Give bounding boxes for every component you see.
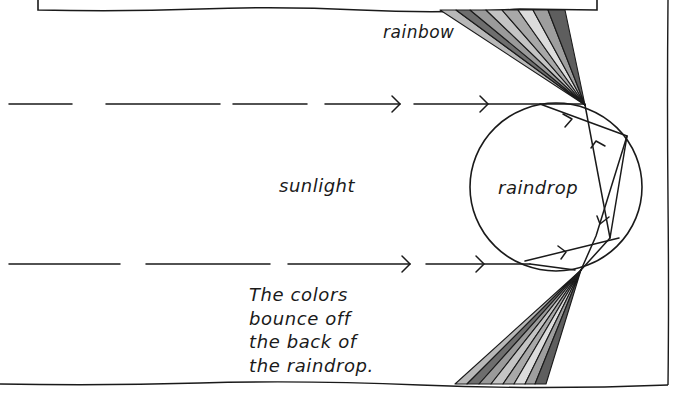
caption-text: The colors bounce off the back of the ra… xyxy=(249,283,374,377)
lower-rainbow-fan xyxy=(455,270,581,384)
sunlight-label: sunlight xyxy=(279,175,355,196)
caption-line: The colors xyxy=(249,283,374,307)
bottom-sunlight-ray xyxy=(9,256,530,272)
rainbow-label: rainbow xyxy=(383,22,455,42)
caption-line: bounce off xyxy=(249,307,374,331)
top-sunlight-ray xyxy=(9,96,585,112)
rainbow-diagram: rainbow sunlight raindrop The colors bou… xyxy=(0,0,686,393)
raindrop-label: raindrop xyxy=(498,177,578,198)
caption-line: the back of xyxy=(249,330,374,354)
upper-rainbow-fan xyxy=(440,10,585,105)
caption-line: the raindrop. xyxy=(249,354,374,378)
